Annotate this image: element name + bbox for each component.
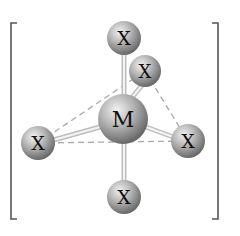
ligand-atom-equatorial-left: X: [21, 126, 55, 160]
central-atom-m: M: [98, 94, 148, 144]
ligand-atom-equatorial-right: X: [171, 124, 205, 158]
svg-text:M: M: [112, 107, 135, 132]
right-bracket: [212, 23, 218, 219]
molecule-diagram: X X M X X X: [0, 0, 240, 236]
svg-text:X: X: [117, 27, 131, 49]
ligand-atom-equatorial-back: X: [129, 55, 161, 87]
left-bracket: [11, 23, 17, 219]
ligand-atom-axial-top: X: [107, 21, 141, 55]
ligand-atom-axial-bottom: X: [107, 180, 141, 214]
svg-text:X: X: [181, 130, 195, 152]
svg-text:X: X: [117, 186, 131, 208]
svg-text:X: X: [139, 61, 152, 82]
svg-text:X: X: [31, 132, 45, 154]
